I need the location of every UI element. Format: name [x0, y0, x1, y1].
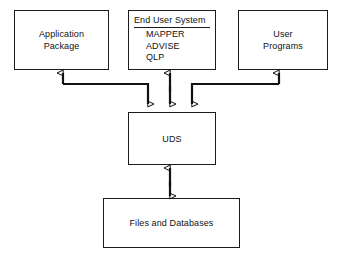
node-files-and-databases-label: Files and Databases — [130, 217, 214, 229]
end-user-system-item-mapper: MAPPER — [146, 29, 210, 41]
node-end-user-system[interactable]: End User System MAPPER ADVISE QLP — [128, 10, 216, 70]
diagram-canvas: Application Package End User System MAPP… — [0, 0, 341, 265]
end-user-system-item-qlp: QLP — [146, 52, 210, 64]
end-user-system-header: End User System — [134, 15, 210, 28]
node-user-programs[interactable]: User Programs — [238, 10, 328, 70]
node-user-programs-label: User Programs — [263, 28, 303, 52]
connector-user-programs-to-uds — [192, 73, 279, 104]
end-user-system-item-advise: ADVISE — [146, 41, 210, 53]
node-uds-label: UDS — [162, 133, 181, 145]
node-uds[interactable]: UDS — [128, 112, 216, 165]
end-user-system-item-list: MAPPER ADVISE QLP — [134, 28, 210, 64]
connector-application-package-to-uds — [63, 73, 148, 104]
node-application-package[interactable]: Application Package — [14, 10, 109, 70]
node-application-package-label: Application Package — [39, 28, 84, 52]
node-files-and-databases[interactable]: Files and Databases — [103, 198, 240, 248]
